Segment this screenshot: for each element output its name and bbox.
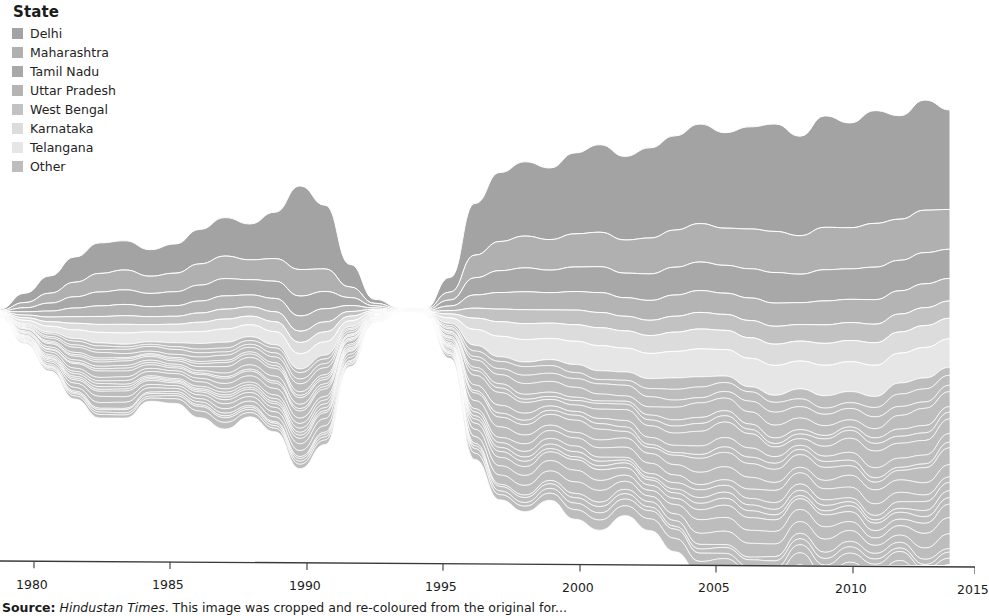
legend-item-label: West Bengal — [30, 103, 108, 117]
x-tick-label-2010: 2010 — [835, 581, 867, 596]
legend-item-label: Other — [30, 160, 66, 174]
x-tick-label-2000: 2000 — [562, 580, 594, 595]
legend-swatch-icon — [12, 66, 23, 77]
x-tick-label-1980: 1980 — [16, 577, 48, 592]
legend-item-tamil-nadu[interactable]: Tamil Nadu — [12, 62, 116, 81]
legend: State DelhiMaharashtraTamil NaduUttar Pr… — [12, 4, 116, 176]
x-tick-label-1995: 1995 — [425, 579, 457, 594]
legend-swatch-icon — [12, 123, 23, 134]
legend-swatch-icon — [12, 104, 23, 115]
x-tick-label-2015: 2015 — [957, 582, 989, 597]
source-prefix: Source: — [2, 600, 56, 615]
legend-swatch-icon — [12, 161, 23, 172]
legend-swatch-icon — [12, 142, 23, 153]
legend-item-west-bengal[interactable]: West Bengal — [12, 100, 116, 119]
x-axis: 19801985199019952000200520102015 — [0, 556, 975, 600]
source-publication: Hindustan Times — [60, 600, 165, 615]
legend-swatch-icon — [12, 85, 23, 96]
legend-item-label: Uttar Pradesh — [30, 84, 116, 98]
legend-item-karnataka[interactable]: Karnataka — [12, 119, 116, 138]
legend-item-label: Tamil Nadu — [30, 65, 99, 79]
x-tick-label-2005: 2005 — [698, 580, 730, 595]
x-axis-line — [0, 556, 975, 574]
x-tick-label-1985: 1985 — [152, 577, 184, 592]
legend-item-delhi[interactable]: Delhi — [12, 24, 116, 43]
legend-item-label: Maharashtra — [30, 46, 109, 60]
legend-items: DelhiMaharashtraTamil NaduUttar PradeshW… — [12, 24, 116, 176]
legend-item-label: Telangana — [30, 141, 93, 155]
legend-item-other[interactable]: Other — [12, 157, 116, 176]
legend-item-label: Delhi — [30, 27, 62, 41]
x-tick-label-1990: 1990 — [289, 578, 321, 593]
legend-title: State — [13, 4, 116, 20]
legend-item-maharashtra[interactable]: Maharashtra — [12, 43, 116, 62]
legend-item-uttar-pradesh[interactable]: Uttar Pradesh — [12, 81, 116, 100]
source-note: Source: Hindustan Times. This image was … — [2, 600, 973, 615]
chart-plot-area — [0, 0, 975, 565]
legend-swatch-icon — [12, 28, 23, 39]
legend-item-telangana[interactable]: Telangana — [12, 138, 116, 157]
axis-line — [0, 561, 975, 567]
legend-item-label: Karnataka — [30, 122, 93, 136]
legend-swatch-icon — [12, 47, 23, 58]
source-note-text: . This image was cropped and re-coloured… — [165, 600, 567, 615]
streamgraph-svg — [0, 0, 975, 565]
